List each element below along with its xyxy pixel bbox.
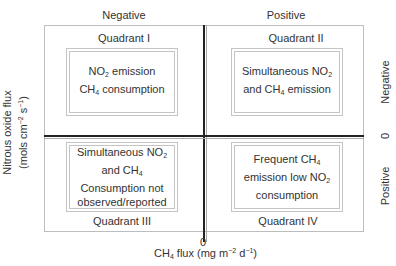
y-positive-label: Positive: [379, 156, 391, 216]
quadrant-2-label: Quadrant II: [226, 32, 366, 44]
quadrant-3-line-2: and CH4: [101, 163, 142, 181]
quadrant-2-line-1: Simultaneous NO2: [242, 64, 332, 82]
quadrant-3-line-1: Simultaneous NO2: [77, 145, 167, 163]
quadrant-4-line-3: consumption: [256, 188, 318, 202]
quadrant-3-line-4: observed/reported: [77, 195, 166, 209]
x-negative-label: Negative: [64, 9, 184, 21]
quadrant-4-box: Frequent CH4 emission low NO2 consumptio…: [231, 142, 343, 212]
vertical-axis-line-secondary: [206, 25, 207, 242]
vertical-axis-line: [203, 25, 205, 242]
y-axis-label-line-1: Nitrous oxide flux: [1, 73, 14, 193]
x-axis-label: CH4 flux (mg m−2 d−1): [154, 247, 257, 260]
quadrant-3-box: Simultaneous NO2 and CH4 Consumption not…: [66, 142, 178, 212]
y-negative-label: Negative: [379, 52, 391, 112]
horizontal-axis-line: [44, 135, 364, 137]
horizontal-axis-line-secondary: [44, 138, 364, 139]
x-positive-label: Positive: [226, 9, 346, 21]
quadrant-2-line-2: and CH4 emission: [243, 82, 331, 100]
y-axis-zero: 0: [379, 128, 391, 144]
y-axis-label-line-2: (mols cm−2 s−1): [14, 73, 30, 193]
y-axis-label: Nitrous oxide flux (mols cm−2 s−1): [1, 73, 30, 193]
quadrant-2-box: Simultaneous NO2 and CH4 emission: [231, 48, 343, 116]
quadrant-4-line-1: Frequent CH4: [254, 152, 321, 170]
quadrant-4-label: Quadrant IV: [218, 215, 358, 227]
quadrant-1-box: NO2 emission CH4 consumption: [66, 48, 178, 116]
quadrant-3-line-3: Consumption not: [80, 181, 163, 195]
quadrant-1-line-2: CH4 consumption: [79, 82, 164, 100]
quadrant-4-line-2: emission low NO2: [244, 170, 330, 188]
quadrant-3-label: Quadrant III: [52, 215, 192, 227]
quadrant-1-line-1: NO2 emission: [89, 64, 156, 82]
quadrant-1-label: Quadrant I: [54, 32, 194, 44]
